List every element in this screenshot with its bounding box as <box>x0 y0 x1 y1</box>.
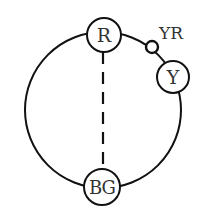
node-yr-marker: YR <box>146 23 184 53</box>
node-r-label: R <box>97 24 112 46</box>
node-y: Y <box>157 61 189 93</box>
color-circle-diagram: YR R Y BG <box>0 0 205 222</box>
node-y-label: Y <box>166 66 180 88</box>
node-bg: BG <box>84 169 120 205</box>
node-r: R <box>87 18 121 52</box>
node-yr-label: YR <box>158 23 184 43</box>
node-bg-label: BG <box>89 177 115 198</box>
